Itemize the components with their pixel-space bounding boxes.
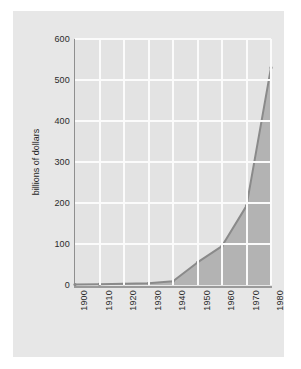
gridline-vertical bbox=[246, 39, 248, 285]
gridline-vertical bbox=[221, 39, 223, 285]
y-axis-tick-label: 600 bbox=[54, 34, 70, 44]
x-axis-tick-label: 1930 bbox=[153, 290, 163, 311]
y-axis-tick-label: 0 bbox=[65, 280, 70, 290]
x-axis-tick-label: 1950 bbox=[202, 290, 212, 311]
data-point-marker bbox=[73, 283, 76, 286]
x-axis-tick-label: 1900 bbox=[79, 290, 89, 311]
plot-area bbox=[75, 39, 271, 285]
x-axis-tick-labels: 190019101920193019401950196019701980 bbox=[75, 290, 271, 350]
gridline-vertical bbox=[123, 39, 125, 285]
gridline-vertical bbox=[197, 39, 199, 285]
chart-figure: billions of dollars 0100200300400500600 … bbox=[0, 0, 301, 369]
gridline-vertical bbox=[172, 39, 174, 285]
y-axis-tick-label: 300 bbox=[54, 157, 70, 167]
y-axis-tick-label: 200 bbox=[54, 198, 70, 208]
x-axis-tick-label: 1910 bbox=[104, 290, 114, 311]
gridline-vertical bbox=[148, 39, 150, 285]
x-axis-tick-label: 1980 bbox=[275, 290, 285, 311]
x-axis-line bbox=[74, 286, 272, 288]
x-axis-tick-label: 1970 bbox=[251, 290, 261, 311]
y-axis-tick-label: 500 bbox=[54, 75, 70, 85]
x-axis-tick-label: 1940 bbox=[177, 290, 187, 311]
y-axis-tick-label: 100 bbox=[54, 239, 70, 249]
chart-panel: billions of dollars 0100200300400500600 … bbox=[13, 11, 284, 357]
x-axis-tick-label: 1920 bbox=[128, 290, 138, 311]
gridline-vertical bbox=[270, 39, 272, 285]
gridline-vertical bbox=[99, 39, 101, 285]
y-axis-tick-label: 400 bbox=[54, 116, 70, 126]
y-axis-tick-labels: 0100200300400500600 bbox=[13, 39, 70, 285]
x-axis-tick-label: 1960 bbox=[226, 290, 236, 311]
